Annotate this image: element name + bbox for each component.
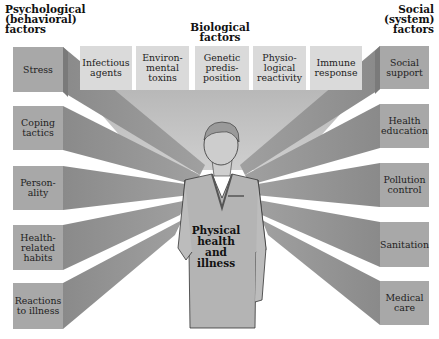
factor-health-related-habits: Health- related habits — [13, 225, 63, 270]
biological-factors-header: Biological factors — [190, 22, 250, 42]
factor-environmental-toxins: Environ- mental toxins — [136, 46, 189, 90]
psychological-factors-header: Psychological (behavioral) factors — [5, 4, 85, 34]
factor-health-education: Health education — [380, 104, 429, 148]
social-factors-header: Social (system) factors — [384, 4, 434, 34]
factor-stress: Stress — [13, 47, 63, 92]
factor-pollution-control: Pollution control — [380, 163, 429, 207]
physical-health-and-illness-label: Physical health and illness — [184, 225, 248, 269]
factor-social-support: Social support — [380, 46, 429, 89]
factor-coping-tactics: Coping tactics — [13, 106, 63, 150]
factor-medical-care: Medical care — [380, 281, 429, 325]
factor-sanitation: Sanitation — [380, 222, 429, 267]
factor-personality: Person- ality — [13, 166, 63, 210]
factor-genetic-predisposition: Genetic predis- position — [195, 46, 249, 90]
factor-physiological-reactivity: Physio- logical reactivity — [253, 46, 306, 90]
factor-infectious-agents: Infectious agents — [80, 46, 132, 90]
factor-reactions-to-illness: Reactions to illness — [13, 283, 63, 329]
factor-immune-response: Immune response — [310, 46, 362, 90]
